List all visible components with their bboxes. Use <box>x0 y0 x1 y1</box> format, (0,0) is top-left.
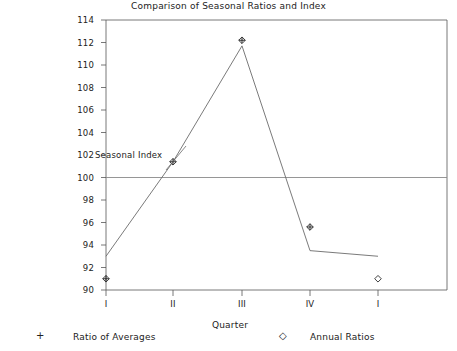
x-axis-tick-label: I <box>363 299 393 309</box>
diamond-marker-icon: ◇ <box>279 330 287 341</box>
legend-label-ratio-of-averages: Ratio of Averages <box>73 332 156 342</box>
x-axis-ticks <box>106 290 378 296</box>
data-point-marker <box>307 224 313 230</box>
chart-figure: Comparison of Seasonal Ratios and Index … <box>0 0 457 351</box>
x-axis-tick-label: IV <box>295 299 325 309</box>
y-axis-tick-label: 102 <box>68 150 94 160</box>
y-axis-tick-label: 106 <box>68 105 94 115</box>
y-axis-tick-label: 92 <box>68 263 94 273</box>
x-axis-tick-label: I <box>91 299 121 309</box>
x-axis-label: Quarter <box>170 320 290 330</box>
annotation-seasonal-index: Seasonal Index <box>95 150 162 160</box>
x-axis-tick-label: II <box>158 299 188 309</box>
annotation-leader-line <box>166 146 186 170</box>
data-point-marker <box>239 37 245 43</box>
y-axis-tick-label: 96 <box>68 218 94 228</box>
y-axis-tick-label: 100 <box>68 173 94 183</box>
y-axis-tick-label: 90 <box>68 285 94 295</box>
data-point-marker <box>103 276 109 282</box>
y-axis-tick-label: 108 <box>68 83 94 93</box>
x-axis-tick-label: III <box>227 299 257 309</box>
y-axis-tick-label: 114 <box>68 15 94 25</box>
legend-label-annual-ratios: Annual Ratios <box>310 332 375 342</box>
plus-marker-icon: + <box>36 330 44 341</box>
y-axis-tick-label: 112 <box>68 38 94 48</box>
y-axis-tick-label: 110 <box>68 60 94 70</box>
y-axis-tick-label: 104 <box>68 128 94 138</box>
y-axis-tick-label: 94 <box>68 240 94 250</box>
data-point-marker <box>375 275 382 282</box>
y-axis-tick-label: 98 <box>68 195 94 205</box>
